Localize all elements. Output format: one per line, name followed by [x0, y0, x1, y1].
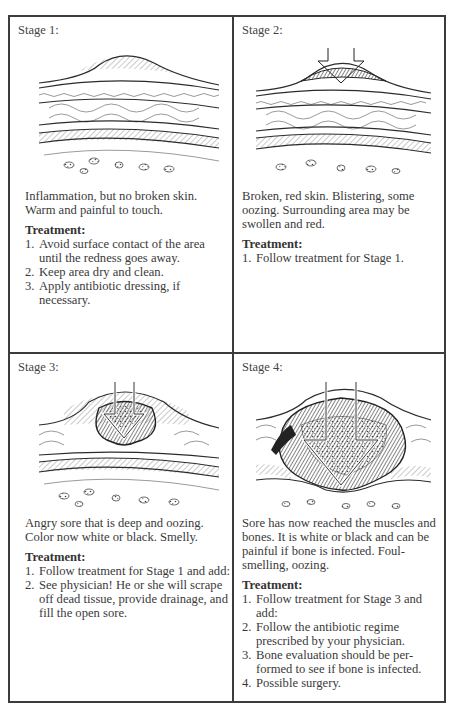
- treatment-item: 4.Possible surgery.: [242, 676, 437, 690]
- treatment-label: Treatment:: [242, 237, 437, 251]
- item-number: 4.: [242, 676, 251, 690]
- item-number: 1.: [242, 592, 251, 606]
- treatment-item: 2.Keep area dry and clean.: [25, 265, 230, 279]
- treatment-list: 1.Avoid surface contact of the area unti…: [25, 237, 230, 307]
- treatment-item: 1.Follow treatment for Stage 3 and add:: [242, 592, 437, 620]
- item-number: 3.: [25, 279, 34, 293]
- stage-3-panel: Stage 3: Angry sore that is deep and ooz…: [10, 354, 232, 701]
- item-number: 1.: [25, 564, 34, 578]
- skin-cross-section-illustration: [246, 380, 436, 515]
- item-number: 3.: [242, 648, 251, 662]
- item-number: 2.: [242, 620, 251, 634]
- stage-1-panel: Stage 1: Inflammation, but no broken ski…: [10, 17, 232, 352]
- item-number: 1.: [25, 237, 34, 251]
- stage-text: Inflammation, but no broken skin. Warm a…: [25, 189, 230, 307]
- treatment-list: 1.Follow treatment for Stage 1.: [242, 251, 437, 265]
- item-text: Follow the antibiotic regime prescribed …: [256, 620, 405, 648]
- treatment-list: 1.Follow treatment for Stage 3 and add: …: [242, 592, 437, 690]
- treatment-item: 1.Follow treatment for Stage 1 and add:: [25, 564, 230, 578]
- item-number: 1.: [242, 251, 251, 265]
- treatment-item: 2.See physician! He or she will scrape o…: [25, 578, 230, 620]
- stage-description: Broken, red skin. Blistering, some oozin…: [242, 189, 437, 231]
- item-number: 2.: [25, 578, 34, 592]
- skin-cross-section-illustration: [24, 380, 224, 515]
- item-text: Follow treatment for Stage 3 and add:: [256, 592, 422, 620]
- stage-title: Stage 4:: [242, 360, 283, 375]
- stage-title: Stage 3:: [18, 360, 59, 375]
- stage-title: Stage 2:: [242, 23, 283, 38]
- stage-title: Stage 1:: [18, 23, 59, 38]
- stage-text: Sore has now reached the muscles and bon…: [242, 516, 437, 690]
- treatment-list: 1.Follow treatment for Stage 1 and add: …: [25, 564, 230, 620]
- item-text: Possible surgery.: [256, 676, 341, 690]
- item-text: See physician! He or she will scrape off…: [39, 578, 228, 620]
- item-text: Apply antibiotic dressing, if necessary.: [39, 279, 180, 307]
- item-text: Bone evaluation should be per-formed to …: [256, 648, 421, 676]
- treatment-label: Treatment:: [25, 223, 230, 237]
- treatment-label: Treatment:: [25, 550, 230, 564]
- stage-4-panel: Stage 4: Sore has now reached the muscle…: [234, 354, 444, 701]
- stage-text: Broken, red skin. Blistering, some oozin…: [242, 189, 437, 265]
- item-text: Avoid surface contact of the area until …: [39, 237, 205, 265]
- treatment-item: 1.Follow treatment for Stage 1.: [242, 251, 437, 265]
- stage-description: Sore has now reached the muscles and bon…: [242, 516, 437, 572]
- treatment-item: 1.Avoid surface contact of the area unti…: [25, 237, 230, 265]
- item-text: Follow treatment for Stage 1 and add:: [39, 564, 230, 578]
- skin-cross-section-illustration: [24, 43, 224, 178]
- stage-text: Angry sore that is deep and oozing. Colo…: [25, 516, 230, 620]
- skin-cross-section-illustration: [246, 43, 436, 178]
- treatment-item: 3.Apply antibiotic dressing, if necessar…: [25, 279, 230, 307]
- stage-2-panel: Stage 2: Broken, red skin. Blistering, s…: [234, 17, 444, 352]
- treatment-item: 2.Follow the antibiotic regime prescribe…: [242, 620, 437, 648]
- treatment-label: Treatment:: [242, 578, 437, 592]
- item-text: Keep area dry and clean.: [39, 265, 164, 279]
- item-number: 2.: [25, 265, 34, 279]
- item-text: Follow treatment for Stage 1.: [256, 251, 404, 265]
- treatment-item: 3.Bone evaluation should be per-formed t…: [242, 648, 437, 676]
- stage-description: Angry sore that is deep and oozing. Colo…: [25, 516, 230, 544]
- stage-description: Inflammation, but no broken skin. Warm a…: [25, 189, 230, 217]
